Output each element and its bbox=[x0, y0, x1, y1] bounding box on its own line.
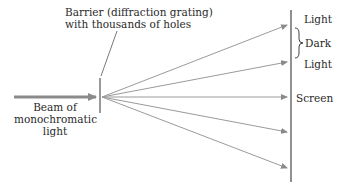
barrier-label-line2: with thousands of holes bbox=[65, 18, 213, 30]
barrier-label-line1: Barrier (diffraction grating) bbox=[65, 6, 213, 18]
label-light-top: Light bbox=[304, 13, 332, 25]
dark-brace bbox=[295, 28, 303, 58]
beam-label-line1: Beam of bbox=[14, 101, 96, 113]
barrier-label: Barrier (diffraction grating) with thous… bbox=[65, 6, 213, 30]
label-light-second: Light bbox=[304, 58, 332, 70]
label-dark: Dark bbox=[305, 37, 331, 49]
beam-label-line2: monochromatic bbox=[14, 113, 96, 125]
barrier-leader-line bbox=[101, 31, 117, 76]
beam-label: Beam of monochromatic light bbox=[14, 101, 96, 137]
diffracted-rays bbox=[102, 25, 287, 168]
label-screen: Screen bbox=[296, 92, 333, 104]
beam-label-line3: light bbox=[14, 125, 96, 137]
